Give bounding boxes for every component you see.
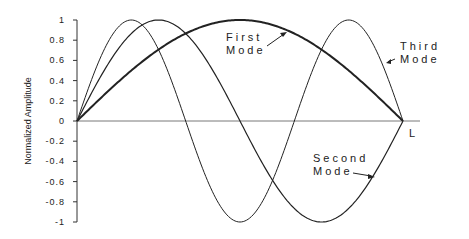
arrowhead-icon bbox=[386, 59, 391, 64]
y-tick-label: 0 bbox=[59, 116, 65, 126]
y-axis-title: Normalized Amplitude bbox=[23, 77, 33, 165]
y-tick-label: -0.2 bbox=[45, 136, 65, 146]
y-tick-label: -1 bbox=[55, 217, 65, 227]
third-mode-annotation: Third Mode bbox=[386, 40, 440, 65]
y-axis: 10.80.60.40.20-0.2-0.4-0.6-0.8-1 bbox=[45, 15, 77, 227]
y-tick-label: -0.4 bbox=[45, 156, 65, 166]
x-end-label: L bbox=[409, 127, 418, 139]
y-tick-label: 0.2 bbox=[49, 96, 65, 106]
mode-shapes-chart: 10.80.60.40.20-0.2-0.4-0.6-0.8-1 Normali… bbox=[0, 0, 469, 239]
y-tick-label: 0.8 bbox=[49, 35, 65, 45]
svg-text:Second: Second bbox=[313, 152, 368, 164]
y-tick-label: 0.4 bbox=[49, 76, 65, 86]
y-tick-label: -0.6 bbox=[45, 177, 65, 187]
svg-text:First: First bbox=[226, 31, 262, 43]
svg-text:Mode: Mode bbox=[313, 165, 353, 177]
y-tick-label: 1 bbox=[59, 15, 65, 25]
svg-text:Mode: Mode bbox=[226, 44, 266, 56]
svg-text:Third: Third bbox=[400, 40, 440, 52]
svg-text:Mode: Mode bbox=[400, 53, 440, 65]
first-mode-annotation: First Mode bbox=[226, 31, 287, 56]
y-tick-label: 0.6 bbox=[49, 55, 65, 65]
y-tick-label: -0.8 bbox=[45, 197, 65, 207]
first-mode-arrow bbox=[267, 34, 284, 46]
second-mode-annotation: Second Mode bbox=[313, 152, 375, 179]
